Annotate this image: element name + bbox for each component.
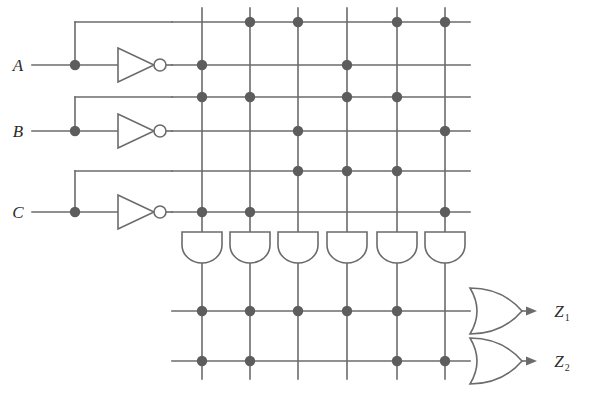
or-gate-Z1 — [470, 288, 522, 334]
and-plane-dot-r5-c3 — [293, 166, 303, 176]
and-plane-dot-r2-c1 — [197, 60, 207, 70]
or-plane-dot-r1-c5 — [392, 306, 402, 316]
or-plane-dot-r1-c3 — [293, 306, 303, 316]
or-plane-dot-r2-c1 — [197, 356, 207, 366]
input-tap-dot-C — [70, 207, 80, 217]
output-label-subscript-Z2: 2 — [565, 362, 570, 373]
output-arrowhead-Z2 — [526, 357, 537, 366]
and-plane-dot-r6-c6 — [440, 207, 450, 217]
and-plane-dot-r3-c5 — [392, 92, 402, 102]
or-gate-Z2 — [470, 338, 522, 384]
inverter-C — [118, 195, 154, 229]
and-plane-dot-r1-c6 — [440, 17, 450, 27]
or-plane-dot-r2-c6 — [440, 356, 450, 366]
and-plane-dot-r1-c3 — [293, 17, 303, 27]
and-plane-dot-r6-c1 — [197, 207, 207, 217]
input-label-C: C — [12, 203, 24, 222]
and-gate-4 — [327, 232, 367, 263]
and-plane-dot-r3-c2 — [245, 92, 255, 102]
and-plane-dot-r3-c1 — [197, 92, 207, 102]
and-plane-dot-r5-c5 — [392, 166, 402, 176]
and-gate-2 — [230, 232, 270, 263]
or-plane-dot-r1-c2 — [245, 306, 255, 316]
inverter-A — [118, 48, 154, 82]
gate-layer — [118, 48, 522, 384]
pla-diagram-canvas: ABCZ1Z2 — [0, 0, 600, 399]
and-gate-3 — [278, 232, 318, 263]
output-arrowhead-Z1 — [526, 307, 537, 316]
and-plane-dot-r1-c2 — [245, 17, 255, 27]
and-plane-dot-r2-c4 — [342, 60, 352, 70]
input-label-B: B — [13, 122, 24, 141]
and-gate-1 — [182, 232, 222, 263]
and-gate-6 — [425, 232, 465, 263]
or-plane-dot-r2-c2 — [245, 356, 255, 366]
and-gate-5 — [377, 232, 417, 263]
and-plane-dot-r6-c2 — [245, 207, 255, 217]
or-plane-dot-r1-c1 — [197, 306, 207, 316]
and-plane-dot-r4-c3 — [293, 126, 303, 136]
input-tap-dot-B — [70, 126, 80, 136]
inverter-bubble-C — [154, 206, 166, 218]
output-label-Z2: Z2 — [554, 352, 569, 373]
input-label-A: A — [12, 56, 24, 75]
and-plane-dot-r1-c5 — [392, 17, 402, 27]
inverter-bubble-B — [154, 125, 166, 137]
or-plane-dot-r1-c4 — [342, 306, 352, 316]
and-plane-dot-r4-c6 — [440, 126, 450, 136]
pla-diagram-svg: ABCZ1Z2 — [0, 0, 600, 399]
output-label-Z1: Z1 — [554, 302, 569, 323]
and-plane-dot-r3-c4 — [342, 92, 352, 102]
inverter-bubble-A — [154, 59, 166, 71]
inverter-B — [118, 114, 154, 148]
input-tap-dot-A — [70, 60, 80, 70]
output-label-subscript-Z1: 1 — [565, 312, 570, 323]
and-plane-dot-r5-c4 — [342, 166, 352, 176]
or-plane-dot-r2-c5 — [392, 356, 402, 366]
wire-layer — [32, 8, 537, 379]
